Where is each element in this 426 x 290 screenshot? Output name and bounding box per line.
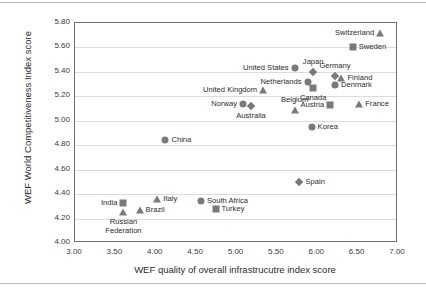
data-point-marker [308, 123, 315, 130]
data-point-marker [291, 106, 299, 113]
gridline [75, 96, 396, 97]
x-axis-tick-label: 7.00 [377, 248, 417, 256]
gridline [75, 145, 396, 146]
data-point-marker [162, 137, 169, 144]
y-axis-tick-label: 5.00 [36, 116, 70, 124]
data-point-marker [355, 100, 363, 107]
data-point-label: Denmark [341, 81, 372, 89]
data-point-label: Russian Federation [101, 218, 145, 235]
x-axis-tick-label: 3.00 [54, 248, 94, 256]
y-axis-tick-label: 4.20 [36, 214, 70, 222]
x-axis-tick-label: 3.50 [94, 248, 134, 256]
data-point-marker [376, 29, 384, 36]
data-point-label: United States [243, 64, 289, 72]
x-axis-tick-label: 6.00 [296, 248, 336, 256]
y-axis-tick-label: 4.40 [36, 189, 70, 197]
y-axis-tick-label: 4.80 [36, 140, 70, 148]
data-point-marker [197, 198, 204, 205]
data-point-label: Brazil [146, 206, 165, 214]
data-point-marker [120, 199, 127, 206]
x-axis-tick-label: 5.00 [216, 248, 256, 256]
y-axis-tick-label: 5.20 [36, 91, 70, 99]
data-point-label: Netherlands [261, 77, 302, 85]
data-point-marker [136, 207, 144, 214]
data-point-label: China [171, 136, 191, 144]
y-axis-tick-label: 5.80 [36, 18, 70, 26]
data-point-label: France [365, 99, 389, 107]
data-point-marker [310, 84, 317, 91]
data-point-marker [212, 205, 219, 212]
gridline [75, 121, 396, 122]
data-point-marker [247, 102, 255, 110]
data-point-label: Italy [163, 195, 177, 203]
x-axis-tick-label: 5.50 [256, 248, 296, 256]
data-point-marker [153, 196, 161, 203]
data-point-marker [349, 44, 356, 51]
y-axis-tick-labels: 4.004.204.404.604.805.005.205.405.605.80 [32, 0, 70, 290]
y-axis-tick-label: 5.40 [36, 67, 70, 75]
data-point-label: Korea [318, 123, 338, 131]
x-axis-title: WEF quality of overall infrastrucutre in… [60, 264, 410, 275]
x-axis-tick-label: 4.00 [135, 248, 175, 256]
data-point-label: Norway [211, 99, 237, 107]
data-point-label: Germany [319, 61, 350, 69]
plot-area: SwitzerlandSwedenUnited StatesJapanGerma… [74, 22, 397, 242]
data-point-label: Turkey [222, 205, 245, 213]
gridline [75, 47, 396, 48]
gridline [75, 194, 396, 195]
y-axis-title: WEF World Competitiveness Index score [22, 13, 33, 223]
data-point-marker [309, 68, 317, 76]
data-point-marker [291, 65, 298, 72]
data-point-marker [259, 87, 267, 94]
data-point-marker [239, 100, 246, 107]
data-point-label: Spain [305, 178, 324, 186]
x-axis-tick-label: 6.50 [337, 248, 377, 256]
data-point-label: Australia [236, 112, 266, 120]
chart-screenshot: WEF World Competitiveness Index score 4.… [0, 0, 426, 290]
data-point-label: Austria [301, 101, 325, 109]
y-axis-tick-label: 4.60 [36, 165, 70, 173]
data-point-marker [295, 178, 303, 186]
data-point-marker [119, 209, 127, 216]
data-point-label: United Kingdom [203, 86, 257, 94]
data-point-marker [332, 82, 339, 89]
y-axis-tick-label: 4.00 [36, 238, 70, 246]
y-axis-tick-label: 5.60 [36, 42, 70, 50]
data-point-label: Sweden [359, 43, 386, 51]
data-point-marker [327, 101, 334, 108]
data-point-label: Switzerland [335, 29, 374, 37]
x-axis-tick-label: 4.50 [175, 248, 215, 256]
gridline [75, 170, 396, 171]
data-point-label: India [101, 198, 117, 206]
